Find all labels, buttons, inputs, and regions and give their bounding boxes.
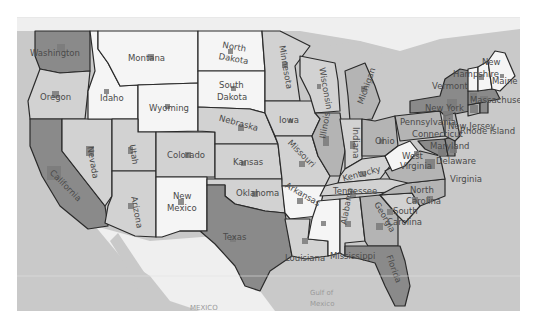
map-canvas[interactable]: Washington Oregon California Nevada Idah… (17, 17, 520, 311)
svg-text:New York: New York (425, 103, 464, 113)
svg-text:MEXICO: MEXICO (190, 304, 218, 311)
svg-text:Vermont: Vermont (432, 81, 469, 91)
svg-text:Dakota: Dakota (217, 92, 247, 102)
svg-text:Oregon: Oregon (40, 92, 71, 102)
svg-text:Delaware: Delaware (436, 156, 476, 166)
svg-text:Texas: Texas (222, 232, 247, 242)
svg-text:Gulf of: Gulf of (310, 289, 334, 297)
svg-text:New: New (482, 57, 501, 67)
svg-text:Massachuset: Massachuset (470, 95, 520, 105)
svg-text:Oklahoma: Oklahoma (236, 188, 279, 198)
svg-text:Colorado: Colorado (167, 150, 205, 160)
svg-text:Carolina: Carolina (406, 196, 441, 206)
svg-text:Tennessee: Tennessee (332, 186, 377, 196)
svg-text:Indiana: Indiana (351, 127, 361, 158)
svg-text:Kansas: Kansas (233, 157, 264, 167)
svg-text:Rhode Island: Rhode Island (460, 126, 515, 136)
svg-text:West: West (402, 151, 424, 161)
svg-text:Montana: Montana (128, 53, 165, 63)
svg-text:Mississippi: Mississippi (330, 251, 375, 261)
svg-text:Wyoming: Wyoming (149, 103, 189, 113)
states-layer (28, 31, 515, 306)
svg-text:Virginia: Virginia (400, 161, 432, 171)
svg-text:North: North (410, 185, 434, 195)
svg-text:Mexico: Mexico (310, 300, 334, 308)
svg-text:Iowa: Iowa (279, 115, 299, 125)
svg-text:Washington: Washington (30, 48, 80, 58)
svg-text:Idaho: Idaho (100, 93, 124, 103)
svg-text:Maryland: Maryland (430, 141, 469, 151)
svg-text:South: South (393, 206, 418, 216)
svg-text:Ohio: Ohio (375, 136, 395, 146)
svg-text:New: New (173, 191, 192, 201)
svg-text:Virginia: Virginia (450, 174, 482, 184)
svg-text:Carolina: Carolina (387, 217, 422, 227)
svg-text:Mexico: Mexico (167, 203, 197, 213)
svg-text:Connecticut: Connecticut (412, 129, 464, 139)
svg-text:Maine: Maine (492, 76, 518, 86)
us-states-map[interactable]: Washington Oregon California Nevada Idah… (17, 18, 520, 311)
svg-text:South: South (219, 80, 244, 90)
svg-text:Louisiana: Louisiana (285, 253, 325, 263)
